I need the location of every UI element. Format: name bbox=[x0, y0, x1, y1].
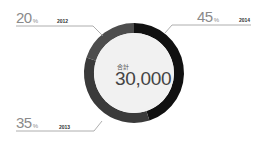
center-total-value: 30,000 bbox=[115, 68, 171, 90]
label-2013-year: 2013 bbox=[59, 124, 70, 130]
label-2012-percent: 20% bbox=[16, 9, 38, 26]
label-2012-year: 2012 bbox=[57, 18, 68, 24]
leader-line-2014 bbox=[165, 25, 251, 33]
label-2013-percent: 35% bbox=[16, 114, 38, 131]
label-2014-year: 2014 bbox=[239, 17, 250, 23]
label-2014-percent: 45% bbox=[197, 8, 219, 25]
leader-line-2012 bbox=[16, 26, 103, 36]
